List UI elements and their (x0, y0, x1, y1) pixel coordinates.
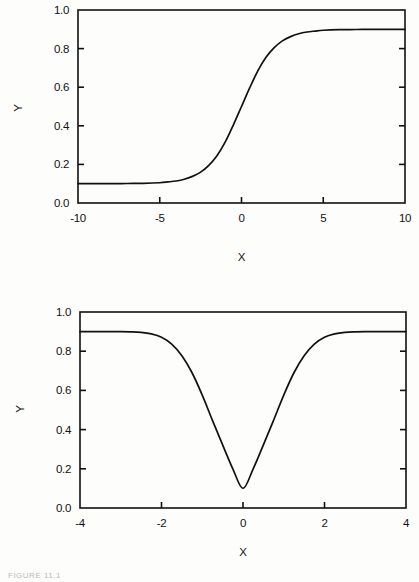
y-axis-title: Y (14, 405, 26, 413)
plot-frame (80, 312, 406, 508)
y-tick-label: 0.8 (56, 345, 71, 357)
y-tick-label: 0.2 (56, 463, 71, 475)
x-tick-label: 4 (403, 517, 410, 529)
sigmoid-chart: -10-505100.00.20.40.60.81.0XY (0, 0, 419, 291)
y-tick-label: 1.0 (56, 306, 71, 318)
x-tick-label: 2 (321, 517, 327, 529)
y-tick-label: 0.2 (54, 158, 69, 170)
data-curve (80, 332, 406, 489)
x-tick-label: 5 (320, 212, 326, 224)
x-tick-label: -10 (70, 212, 86, 224)
figure-top-panel: -10-505100.00.20.40.60.81.0XY (0, 0, 419, 291)
y-tick-label: 0.8 (54, 43, 69, 55)
data-curve (78, 29, 405, 183)
gaussian-dip-chart: -4-20240.00.20.40.60.81.0XY (0, 291, 419, 582)
figure-bottom-panel: -4-20240.00.20.40.60.81.0XY (0, 291, 419, 582)
figure-caption: FIGURE 11.1 (8, 571, 61, 580)
y-tick-label: 1.0 (54, 4, 69, 16)
x-tick-label: -4 (75, 517, 86, 529)
x-tick-label: 0 (238, 212, 244, 224)
y-axis-title: Y (12, 104, 24, 112)
y-tick-label: 0.0 (56, 502, 71, 514)
x-axis-title: X (239, 546, 247, 558)
x-tick-label: -2 (157, 517, 167, 529)
y-tick-label: 0.0 (54, 197, 69, 209)
y-tick-label: 0.6 (54, 81, 69, 93)
y-tick-label: 0.4 (54, 120, 70, 132)
y-tick-label: 0.6 (56, 384, 71, 396)
x-tick-label: 0 (240, 517, 246, 529)
y-tick-label: 0.4 (56, 424, 72, 436)
x-axis-title: X (238, 251, 246, 263)
x-tick-label: -5 (155, 212, 165, 224)
x-tick-label: 10 (399, 212, 411, 224)
